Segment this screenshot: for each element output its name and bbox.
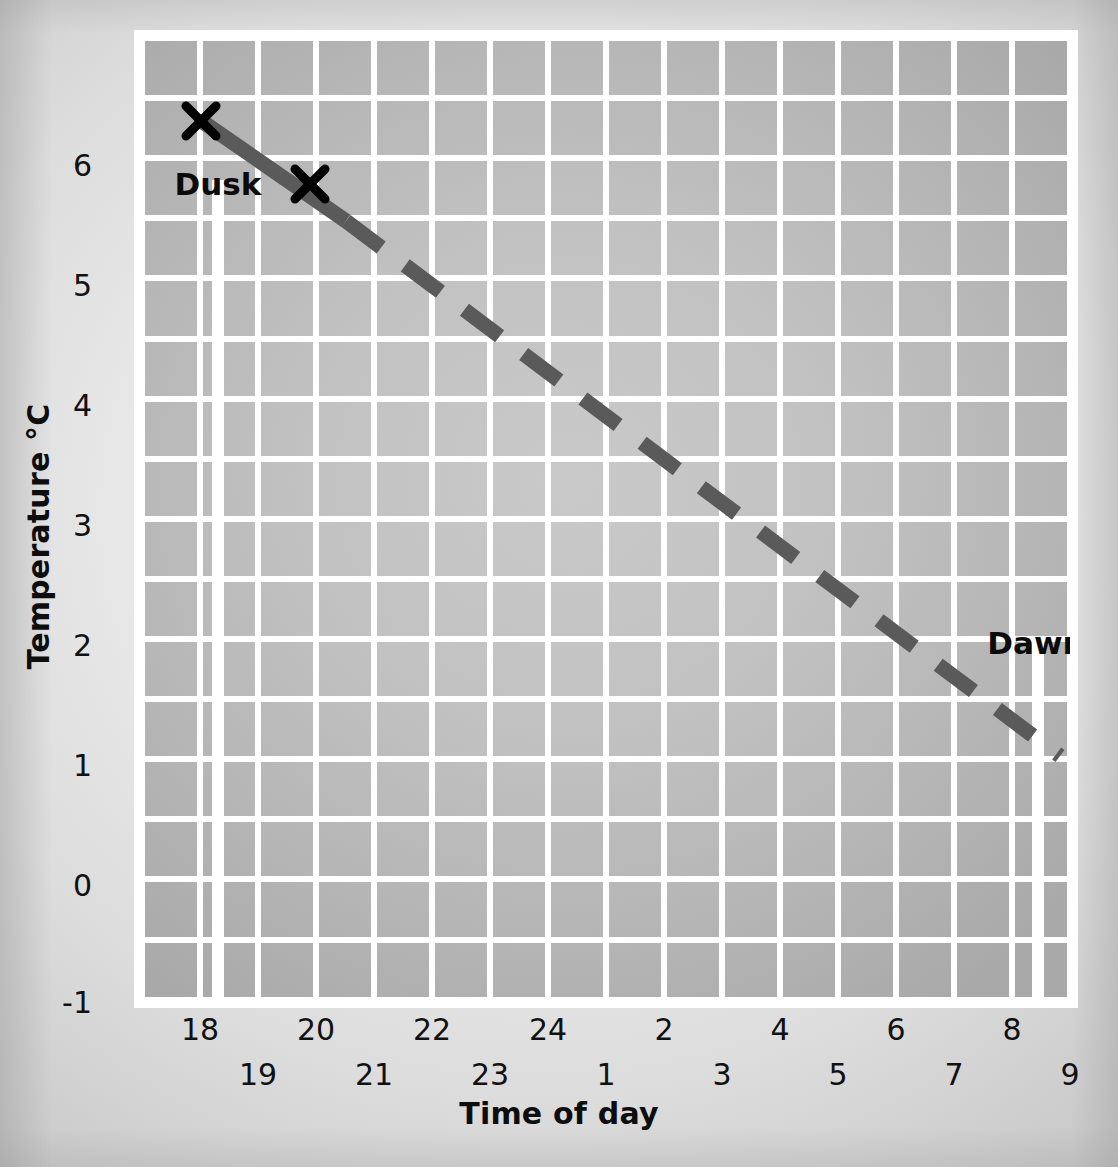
y-axis-title: Temperature °C	[21, 357, 56, 717]
x-tick-19: 19	[239, 1057, 277, 1092]
x-tick-4: 4	[770, 1012, 789, 1047]
chart-page: Dusk Dawn 6 5 4 3 2 1 0 -1 18 19 20 21 2…	[0, 0, 1118, 1167]
x-tick-9: 9	[1060, 1057, 1079, 1092]
x-tick-22: 22	[413, 1012, 451, 1047]
x-tick-24: 24	[529, 1012, 567, 1047]
x-tick-21: 21	[355, 1057, 393, 1092]
x-tick-6: 6	[886, 1012, 905, 1047]
x-axis-title: Time of day	[0, 1096, 1118, 1131]
x-tick-5: 5	[828, 1057, 847, 1092]
x-tick-18: 18	[181, 1012, 219, 1047]
x-axis-tick-labels: 18 19 20 21 22 23 24 1 2 3 4 5 6 7 8 9	[0, 0, 1118, 1167]
x-tick-23: 23	[471, 1057, 509, 1092]
x-tick-2: 2	[654, 1012, 673, 1047]
x-tick-7: 7	[944, 1057, 963, 1092]
x-tick-1: 1	[596, 1057, 615, 1092]
x-tick-3: 3	[712, 1057, 731, 1092]
x-tick-20: 20	[297, 1012, 335, 1047]
x-tick-8: 8	[1002, 1012, 1021, 1047]
